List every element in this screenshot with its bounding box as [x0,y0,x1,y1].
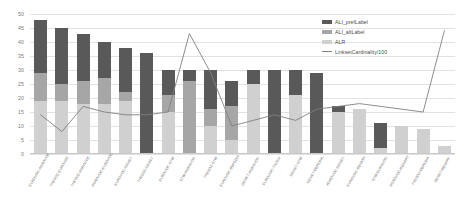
x-axis-label: GEMET-AGROVOC [240,156,260,187]
y-axis-tick-0: 0 [21,151,24,157]
x-axis-label: THESOZ-DBPEDIA [410,156,430,187]
legend-label: ALR [335,39,345,45]
x-axis-label: EUROVOC-AGROVOC [28,156,48,187]
x-axis-label: STW-EUROVOC [368,156,388,187]
x-axis-label: STW-AGROVOC [176,156,196,187]
legend-swatch-icon [322,30,332,34]
legend-label: ALI_altLabel [335,29,364,35]
x-axis-label: EUROVOC-GEMET [113,156,133,187]
y-axis-tick-20: 20 [18,95,24,101]
y-axis-tick-45: 45 [18,25,24,31]
x-axis-label: THESOZ-EUROVOC [49,156,69,187]
x-axis-line [30,153,455,154]
y-axis-tick-5: 5 [21,137,24,143]
legend-label: ALI_prefLabel [335,19,368,25]
chart-legend: ALI_prefLabelALI_altLabelALRLinksetCardi… [322,17,432,57]
x-axis-label: EUROVOC-DBNARY [346,156,366,187]
y-axis-tick-40: 40 [18,39,24,45]
legend-swatch-icon [322,20,332,24]
x-axis-label: THESOZ-AGROVOC [70,156,90,187]
y-axis-tick-10: 10 [18,123,24,129]
x-axis-label: GEMET-STW [283,156,303,187]
x-axis-label: EUROVOC-STW [155,156,175,187]
y-axis-tick-50: 50 [18,11,24,17]
y-axis-tick-15: 15 [18,109,24,115]
x-axis-label: EUROVOC-DBPEDIA [219,156,239,187]
x-axis-label: AGROVOC-GEMET [325,156,345,187]
x-axis-label: THESOZ-STW [198,156,218,187]
legend-item[interactable]: ALI_altLabel [322,27,432,36]
y-axis: 05101520253035404550 [0,14,28,154]
y-axis-tick-25: 25 [18,81,24,87]
y-axis-tick-35: 35 [18,53,24,59]
x-axis-label: THESOZ-GEMET [134,156,154,187]
chart-container: 05101520253035404550 EUROVOC-AGROVOCTHES… [0,0,465,217]
legend-swatch-icon [322,51,332,52]
legend-item[interactable]: LinksetCardinality/100 [322,47,432,56]
legend-item[interactable]: ALR [322,37,432,46]
gridline [30,154,455,155]
x-axis-label: GEMET-DBPEDIA [304,156,324,187]
legend-swatch-icon [322,40,332,44]
x-axis-label: AGROVOC-DBNARY [389,156,409,187]
x-axis-labels: EUROVOC-AGROVOCTHESOZ-EUROVOCTHESOZ-AGRO… [30,156,455,216]
x-axis-label: GEMET-DBNARY [431,156,451,187]
legend-label: LinksetCardinality/100 [335,49,387,55]
x-axis-label: EUROVOC-TheSoz [261,156,281,187]
legend-item[interactable]: ALI_prefLabel [322,17,432,26]
y-axis-tick-30: 30 [18,67,24,73]
x-axis-label: AGROVOC-EUROVOC [91,156,111,187]
